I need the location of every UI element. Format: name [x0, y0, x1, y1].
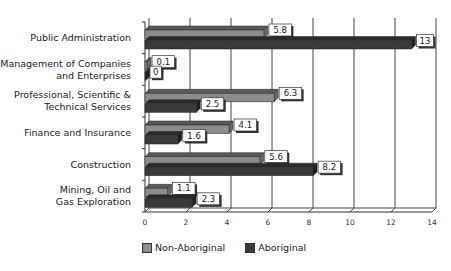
bar-top-face [145, 121, 233, 125]
data-label: 5.6 [269, 152, 283, 162]
data-label: 8.2 [323, 162, 337, 172]
x-tick-label: 6 [266, 218, 271, 227]
category-label: Professional, Scientific & Technical Ser… [14, 89, 131, 113]
legend-item-non-aboriginal: Non-Aboriginal [142, 242, 225, 253]
gridline-floor [186, 208, 190, 212]
bar-aboriginal [145, 104, 196, 113]
legend-item-aboriginal: Aboriginal [245, 242, 306, 253]
gridline-floor [145, 208, 149, 212]
x-tick-label: 2 [184, 218, 189, 227]
x-tick-label: 12 [386, 218, 396, 227]
bar-non-aboriginal [145, 62, 147, 71]
data-label: 4.1 [239, 120, 253, 130]
category-label: Public Administration [30, 32, 131, 44]
data-label: 1.1 [177, 183, 191, 193]
category-label: Finance and Insurance [24, 127, 131, 139]
legend-swatch-non-aboriginal [142, 243, 152, 253]
bar-top-face [145, 26, 268, 30]
bar-aboriginal [145, 41, 412, 50]
x-tick-label: 0 [143, 218, 148, 227]
gridline-floor [227, 208, 231, 212]
gridline-floor [350, 208, 354, 212]
bar-top-face [145, 132, 182, 136]
category-label: Construction [71, 159, 132, 171]
bar-top-face [145, 100, 200, 104]
category-label: Management of Companies and Enterprises [0, 58, 131, 82]
x-tick-label: 10 [345, 218, 355, 227]
bar-top-face [145, 195, 196, 199]
data-label: 0 [153, 67, 158, 77]
data-label: 13 [420, 36, 431, 46]
legend: Non-Aboriginal Aboriginal [142, 242, 306, 253]
bar-top-face [145, 37, 416, 41]
bar-aboriginal [145, 136, 178, 145]
bar-chart: 5.8130.106.32.54.11.65.68.21.12.3 Public… [0, 0, 451, 271]
gridline-floor [391, 208, 395, 212]
legend-label-non-aboriginal: Non-Aboriginal [155, 242, 225, 253]
x-tick-label: 14 [427, 218, 437, 227]
data-label: 5.8 [273, 25, 287, 35]
data-label: 6.3 [284, 88, 298, 98]
bar-aboriginal [145, 167, 313, 176]
category-label: Mining, Oil and Gas Exploration [56, 184, 131, 208]
x-tick-label: 4 [225, 218, 230, 227]
bar-top-face [145, 153, 264, 157]
gridline-floor [309, 208, 313, 212]
gridline-floor [268, 208, 272, 212]
legend-swatch-aboriginal [245, 243, 255, 253]
bar-top-face [145, 184, 172, 188]
gridline-floor [432, 208, 436, 212]
data-label: 1.6 [187, 131, 201, 141]
legend-label-aboriginal: Aboriginal [258, 242, 306, 253]
data-label: 0.1 [157, 57, 171, 67]
bar-aboriginal [145, 72, 146, 81]
data-label: 2.5 [206, 99, 220, 109]
bar-aboriginal [145, 199, 192, 208]
bar-top-face [145, 89, 278, 93]
bar-top-face [145, 163, 317, 167]
data-label: 2.3 [202, 194, 216, 204]
x-tick-label: 8 [307, 218, 312, 227]
